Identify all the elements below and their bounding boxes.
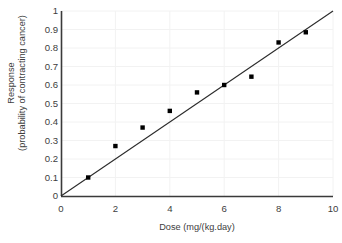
data-point bbox=[140, 125, 144, 129]
plot-area bbox=[0, 0, 342, 243]
data-point bbox=[249, 74, 253, 78]
data-point bbox=[195, 90, 199, 94]
x-axis-title: Dose (mg/(kg.day) bbox=[61, 222, 333, 233]
data-point bbox=[276, 40, 280, 44]
data-point bbox=[222, 83, 226, 87]
data-point-markers bbox=[86, 30, 308, 180]
data-point bbox=[304, 30, 308, 34]
data-point bbox=[113, 144, 117, 148]
data-point bbox=[86, 175, 90, 179]
scatter-chart: Response (probability of contracting can… bbox=[0, 0, 342, 243]
data-point bbox=[168, 109, 172, 113]
